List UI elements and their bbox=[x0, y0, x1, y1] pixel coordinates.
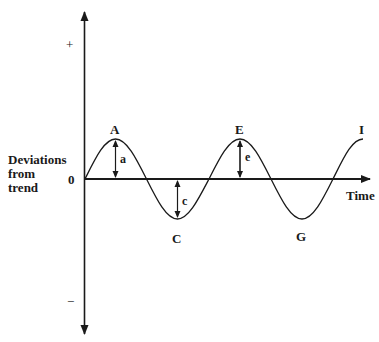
y-axis-title-line-3: trend bbox=[8, 180, 39, 195]
amplitude-label-e: e bbox=[245, 150, 251, 164]
point-label-g: G bbox=[296, 229, 306, 244]
point-label-c: C bbox=[172, 231, 181, 246]
minus-label: − bbox=[67, 294, 74, 309]
point-label-e: E bbox=[235, 122, 244, 137]
zero-label: 0 bbox=[68, 172, 75, 187]
y-axis-title-line-1: Deviations bbox=[8, 152, 67, 167]
business-cycle-diagram: + − 0 Deviations from trend Time A C E G… bbox=[0, 0, 379, 342]
point-label-i: I bbox=[359, 122, 364, 137]
x-axis-label: Time bbox=[346, 188, 375, 203]
y-axis-title-line-2: from bbox=[8, 166, 35, 181]
amplitude-label-c: c bbox=[182, 194, 188, 208]
point-label-a: A bbox=[110, 122, 120, 137]
amplitude-label-a: a bbox=[120, 152, 126, 166]
plus-label: + bbox=[66, 37, 73, 52]
